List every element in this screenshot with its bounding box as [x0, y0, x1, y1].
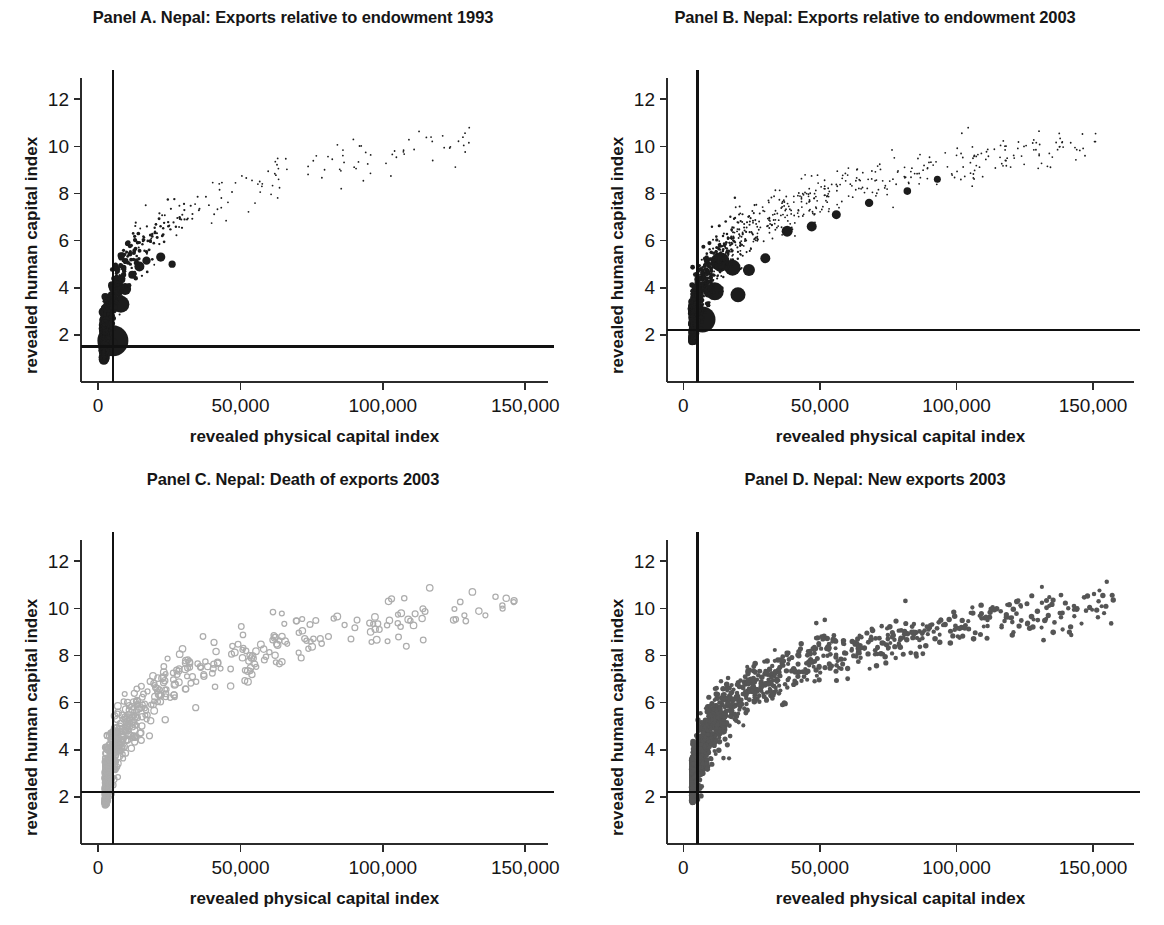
- data-point: [154, 231, 156, 233]
- data-point: [936, 183, 938, 185]
- data-point: [390, 175, 392, 177]
- data-point: [809, 200, 811, 202]
- data-point: [705, 758, 709, 762]
- y-tick-label: 8: [644, 183, 655, 204]
- data-point: [799, 679, 803, 683]
- data-point: [1082, 148, 1084, 150]
- data-point: [985, 159, 987, 161]
- data-point: [960, 618, 965, 623]
- data-point: [257, 183, 259, 185]
- data-point: [225, 220, 227, 222]
- data-point: [360, 145, 362, 147]
- data-point: [1005, 165, 1007, 167]
- data-point: [897, 170, 899, 172]
- data-point: [875, 195, 877, 197]
- data-point: [720, 275, 722, 277]
- data-point: [705, 767, 710, 772]
- data-point: [728, 734, 733, 739]
- data-point: [719, 271, 721, 273]
- data-point: [704, 278, 706, 280]
- data-point: [852, 196, 854, 198]
- data-point: [975, 156, 977, 158]
- data-point: [732, 250, 734, 252]
- data-point: [739, 235, 741, 237]
- data-point: [750, 689, 754, 693]
- data-point: [803, 213, 805, 215]
- data-point: [866, 640, 871, 645]
- data-point: [730, 696, 734, 700]
- data-point: [125, 259, 128, 262]
- data-point: [1095, 133, 1097, 135]
- axis-spines: [81, 540, 548, 844]
- data-point: [279, 611, 284, 616]
- data-point: [786, 214, 788, 216]
- data-point: [964, 176, 966, 178]
- data-point: [971, 185, 973, 187]
- data-point: [901, 652, 906, 657]
- data-point: [769, 220, 771, 222]
- data-point: [855, 180, 857, 182]
- data-point: [735, 682, 740, 687]
- data-point: [755, 678, 759, 682]
- data-point: [139, 228, 141, 230]
- data-point: [962, 626, 967, 631]
- data-point: [741, 267, 743, 269]
- data-point: [693, 296, 695, 298]
- data-point: [740, 240, 742, 242]
- data-point: [285, 158, 287, 160]
- data-point: [726, 263, 729, 266]
- x-tick-label: 150,000: [491, 857, 560, 878]
- data-point: [692, 775, 696, 779]
- data-point: [339, 168, 341, 170]
- data-point: [732, 235, 734, 237]
- data-point: [817, 677, 822, 682]
- data-point: [757, 694, 761, 698]
- data-point: [904, 166, 906, 168]
- data-point: [956, 147, 958, 149]
- data-point: [162, 227, 164, 229]
- data-point: [920, 636, 924, 640]
- data-point: [893, 656, 897, 660]
- data-point: [982, 176, 984, 178]
- data-point: [729, 251, 731, 253]
- data-point: [828, 211, 830, 213]
- data-point: [979, 166, 981, 168]
- data-point: [208, 204, 210, 206]
- data-point: [926, 178, 928, 180]
- data-point: [739, 245, 741, 247]
- data-point: [352, 139, 354, 141]
- data-point: [694, 289, 696, 291]
- data-point: [773, 670, 777, 674]
- data-point: [365, 152, 367, 154]
- x-axis-ticks: 050,000100,000150,000: [678, 382, 1127, 416]
- data-point: [726, 233, 729, 236]
- data-point: [840, 661, 845, 666]
- data-point: [713, 270, 715, 272]
- data-point: [370, 172, 372, 174]
- data-point: [834, 652, 839, 657]
- data-point: [704, 293, 706, 295]
- data-point: [194, 679, 199, 684]
- data-point: [690, 798, 694, 802]
- data-point: [757, 687, 761, 691]
- data-point: [864, 192, 866, 194]
- data-point: [136, 261, 138, 263]
- data-point: [227, 683, 233, 689]
- data-point: [858, 634, 862, 638]
- data-point: [122, 269, 126, 273]
- data-point: [923, 165, 925, 167]
- data-point: [1013, 155, 1015, 157]
- data-point: [716, 748, 721, 753]
- data-point: [967, 627, 971, 631]
- data-point: [741, 684, 745, 688]
- data-point: [926, 627, 930, 631]
- data-point: [712, 741, 716, 745]
- data-point: [827, 193, 829, 195]
- data-point: [715, 723, 719, 727]
- data-point: [173, 198, 175, 200]
- data-point: [948, 640, 954, 646]
- data-point: [974, 170, 976, 172]
- data-point: [848, 195, 850, 197]
- data-point: [977, 154, 979, 156]
- data-point: [783, 205, 785, 207]
